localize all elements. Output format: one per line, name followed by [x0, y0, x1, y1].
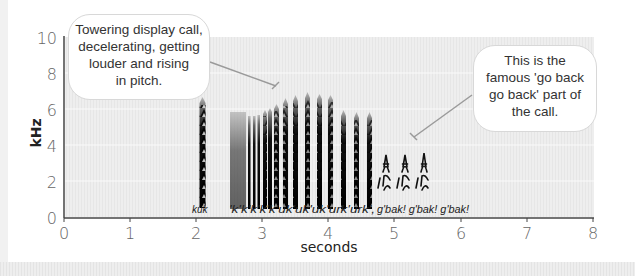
- callout-display-call: Towering display call, decelerating, get…: [68, 14, 210, 100]
- svg-text:6: 6: [47, 101, 57, 120]
- svg-text:1: 1: [125, 224, 135, 243]
- callout-right-line-4: the call.: [474, 103, 596, 120]
- svg-text:10: 10: [37, 29, 57, 48]
- callout-left-line-1: Towering display call,: [69, 21, 209, 38]
- svg-text:8: 8: [47, 65, 57, 84]
- syllable-label-gbak: g'bak! g'bak! g'bak!: [377, 204, 469, 215]
- callout-left-line-2: decelerating, getting: [69, 38, 209, 55]
- callout-left-line-4: in pitch.: [69, 72, 209, 89]
- svg-text:7: 7: [522, 224, 532, 243]
- svg-text:2: 2: [191, 224, 201, 243]
- svg-text:6: 6: [456, 224, 466, 243]
- svg-text:4: 4: [47, 137, 57, 156]
- callout-right-line-3: go back' part of: [474, 86, 596, 103]
- svg-text:0: 0: [47, 209, 57, 228]
- svg-text:0: 0: [59, 224, 69, 243]
- callout-right-line-1: This is the: [474, 52, 596, 69]
- x-axis-title: seconds: [300, 239, 357, 255]
- callout-go-back: This is the famous 'go back go back' par…: [473, 45, 597, 132]
- svg-text:3: 3: [257, 224, 267, 243]
- y-axis-title: kHz: [28, 118, 44, 147]
- svg-text:2: 2: [47, 173, 57, 192]
- syllable-label-series: 'k'k'k'k'k'uk'uk'uk'urk'urk',: [229, 204, 375, 215]
- callout-right-line-2: famous 'go back: [474, 69, 596, 86]
- svg-text:5: 5: [389, 224, 399, 243]
- svg-text:8: 8: [588, 224, 598, 243]
- syllable-label-kuk: kuk: [192, 204, 209, 215]
- callout-left-line-3: louder and rising: [69, 55, 209, 72]
